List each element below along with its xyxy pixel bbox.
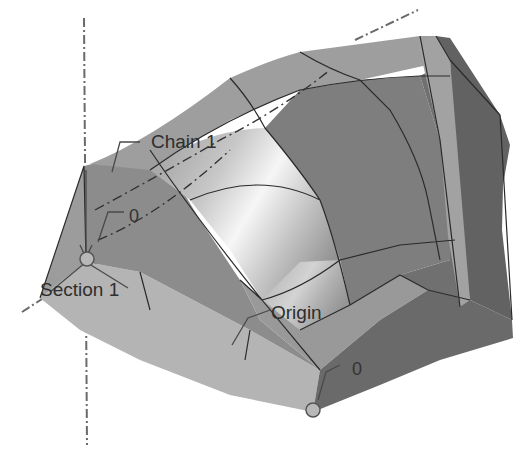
cad-viewport[interactable]: Chain 1 Section 1 Origin 0 0 xyxy=(0,0,526,449)
section-vertex[interactable] xyxy=(80,252,94,266)
chain-label[interactable]: Chain 1 xyxy=(151,131,217,152)
origin-label[interactable]: Origin xyxy=(271,302,322,323)
offset-label-top: 0 xyxy=(129,206,139,226)
origin-vertex[interactable] xyxy=(306,403,320,417)
offset-label-bottom: 0 xyxy=(352,359,362,379)
section-label[interactable]: Section 1 xyxy=(40,279,119,300)
